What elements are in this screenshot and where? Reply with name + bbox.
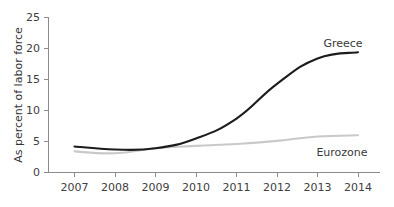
y-tick-25-label: 25 [26, 11, 40, 24]
x-tick-2008-label: 2008 [101, 181, 129, 194]
x-tick-2014-label: 2014 [344, 181, 372, 194]
x-tick-2007-label: 2007 [61, 181, 89, 194]
x-tick-2010-label: 2010 [182, 181, 210, 194]
y-axis-title: As percent of labor force [12, 27, 25, 163]
y-tick-15-label: 15 [26, 73, 40, 86]
y-tick-20-label: 20 [26, 42, 40, 55]
y-tick-0-label: 0 [33, 166, 40, 179]
y-tick-5-label: 5 [33, 135, 40, 148]
x-axis-ticks: 2007 2008 2009 2010 2011 2012 2013 2014 [61, 173, 373, 195]
line-chart-figure: As percent of labor force 25 20 15 10 5 … [0, 0, 394, 207]
x-tick-2009-label: 2009 [142, 181, 170, 194]
x-tick-2013-label: 2013 [304, 181, 332, 194]
y-axis-ticks: 25 20 15 10 5 0 [26, 11, 49, 179]
y-tick-10-label: 10 [26, 104, 40, 117]
series-label-eurozone: Eurozone [316, 146, 367, 159]
chart-canvas: As percent of labor force 25 20 15 10 5 … [0, 0, 394, 207]
x-tick-2012-label: 2012 [263, 181, 291, 194]
series-line-greece [75, 52, 359, 150]
x-tick-2011-label: 2011 [223, 181, 251, 194]
series-label-greece: Greece [323, 37, 362, 50]
